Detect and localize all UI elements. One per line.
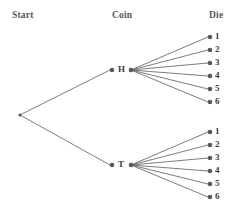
die-node-label-t-3: 3	[215, 152, 220, 162]
die-node-label-h-2: 2	[215, 44, 220, 54]
die-node-dot-t-6	[208, 195, 213, 200]
coin-node-dot-t	[110, 163, 115, 168]
die-node-dot-t-2	[208, 143, 213, 148]
edge-start-to-coin-h	[20, 70, 110, 115]
column-header-coin: Coin	[112, 10, 132, 20]
start-node-dot	[18, 113, 21, 116]
coin-fan-dot-t	[129, 163, 134, 168]
edge-coin-t-to-die-1	[131, 132, 208, 165]
die-node-dot-h-3	[208, 61, 213, 66]
coin-node-label-t: T	[118, 159, 124, 169]
die-node-label-h-4: 4	[215, 70, 220, 80]
die-node-dot-h-5	[208, 87, 213, 92]
die-node-label-t-6: 6	[215, 191, 220, 201]
die-node-dot-t-5	[208, 182, 213, 187]
die-node-label-h-5: 5	[215, 83, 220, 93]
die-node-label-h-1: 1	[215, 31, 220, 41]
tree-edges	[20, 37, 208, 197]
die-node-dot-t-1	[208, 130, 213, 135]
tree-nodes	[18, 35, 212, 200]
die-node-dot-h-2	[208, 48, 213, 53]
coin-node-dot-h	[110, 68, 115, 73]
die-node-dot-t-3	[208, 156, 213, 161]
edge-coin-t-to-die-3	[131, 158, 208, 165]
die-node-label-t-4: 4	[215, 165, 220, 175]
die-node-label-h-6: 6	[215, 96, 220, 106]
column-header-start: Start	[12, 10, 34, 20]
column-header-die: Die	[209, 10, 223, 20]
die-node-dot-h-4	[208, 74, 213, 79]
die-node-dot-t-4	[208, 169, 213, 174]
die-node-label-t-5: 5	[215, 178, 220, 188]
edge-coin-h-to-die-1	[131, 37, 208, 70]
edge-coin-h-to-die-3	[131, 63, 208, 70]
die-node-label-t-2: 2	[215, 139, 220, 149]
die-node-dot-h-6	[208, 100, 213, 105]
die-node-label-t-1: 1	[215, 126, 220, 136]
tree-canvas	[0, 0, 238, 209]
coin-node-label-h: H	[118, 64, 125, 74]
probability-tree-diagram: Start Coin Die H123456T123456	[0, 0, 238, 209]
die-node-dot-h-1	[208, 35, 213, 40]
die-node-label-h-3: 3	[215, 57, 220, 67]
edge-coin-h-to-die-2	[131, 50, 208, 70]
edge-coin-t-to-die-2	[131, 145, 208, 165]
edge-start-to-coin-t	[20, 115, 110, 165]
coin-fan-dot-h	[129, 68, 134, 73]
